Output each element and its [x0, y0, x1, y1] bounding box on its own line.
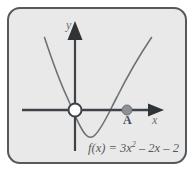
- point-a-label: A: [123, 114, 132, 126]
- x-axis-label: x: [152, 114, 157, 126]
- equation-lhs: f(x) = 3x: [88, 141, 132, 155]
- equation-rhs: – 2x – 2: [136, 141, 179, 155]
- y-axis-label: y: [66, 19, 71, 31]
- figure-container: y x A f(x) = 3x2 – 2x – 2: [0, 0, 196, 173]
- function-equation: f(x) = 3x2 – 2x – 2: [88, 142, 179, 156]
